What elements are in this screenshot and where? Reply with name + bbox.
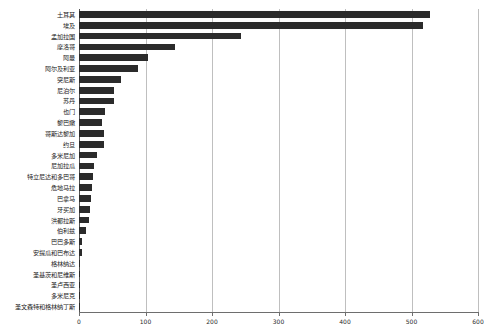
category-label: 黎巴嫩 <box>57 119 75 126</box>
x-tick-label: 200 <box>206 318 217 326</box>
category-label: 约旦 <box>63 141 75 148</box>
category-label: 危地马拉 <box>51 184 75 191</box>
category-label: 尼泊尔 <box>57 87 75 94</box>
x-tick-mark <box>345 312 346 316</box>
category-label: 牙买加 <box>57 206 75 213</box>
category-label: 洪都拉斯 <box>51 217 75 224</box>
category-label: 圣卢西亚 <box>51 281 75 288</box>
category-label: 孟加拉国 <box>51 33 75 40</box>
x-tick-label: 300 <box>273 318 284 326</box>
x-tick-label: 0 <box>77 318 81 326</box>
category-label: 苏丹 <box>63 97 75 104</box>
category-label: 巴巴多斯 <box>51 238 75 245</box>
category-axis-labels: 土耳其埃及孟加拉国摩洛哥阿曼阿尔及利亚突尼斯尼泊尔苏丹也门黎巴嫩哥斯达黎加约旦多… <box>0 9 483 312</box>
category-label: 特立尼达和多巴哥 <box>27 173 75 180</box>
x-tick-label: 100 <box>140 318 151 326</box>
category-label: 巴拿马 <box>57 195 75 202</box>
category-label: 格林纳达 <box>51 260 75 267</box>
x-tick-label: 400 <box>339 318 350 326</box>
category-label: 阿尔及利亚 <box>45 65 75 72</box>
category-label: 尼加拉瓜 <box>51 162 75 169</box>
category-label: 埃及 <box>63 22 75 29</box>
category-label: 圣基茨和尼维斯 <box>33 271 75 278</box>
category-label: 突尼斯 <box>57 76 75 83</box>
x-tick-mark <box>212 312 213 316</box>
category-label: 安提瓜和巴布达 <box>33 249 75 256</box>
category-label: 圣文森特和格林纳丁斯 <box>15 303 75 310</box>
category-label: 阿曼 <box>63 54 75 61</box>
x-tick-mark <box>412 312 413 316</box>
category-label: 也门 <box>63 108 75 115</box>
category-label: 伯利兹 <box>57 227 75 234</box>
category-label: 多米尼克 <box>51 292 75 299</box>
x-tick-label: 600 <box>472 318 483 326</box>
category-label: 摩洛哥 <box>57 43 75 50</box>
x-tick-mark <box>279 312 280 316</box>
x-tick-mark <box>146 312 147 316</box>
x-tick-mark <box>79 312 80 316</box>
category-label: 多米尼加 <box>51 152 75 159</box>
category-label: 土耳其 <box>57 11 75 18</box>
x-tick-mark <box>478 312 479 316</box>
category-label: 哥斯达黎加 <box>45 130 75 137</box>
x-tick-label: 500 <box>406 318 417 326</box>
